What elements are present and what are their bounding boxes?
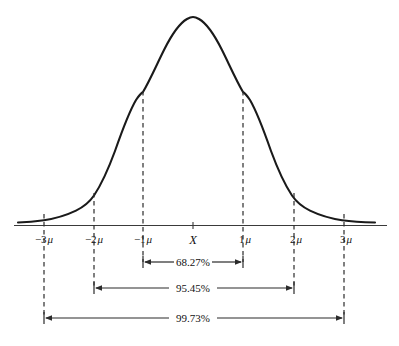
normal-distribution-figure: −3μ −2μ −1μ X 1μ 2μ 3μ 68.27% [0, 0, 399, 346]
axis-label-plus3sigma-value: 3 [340, 233, 346, 245]
axis-label-plus2sigma-value: 2 [290, 233, 296, 245]
arrow-right-icon [286, 285, 293, 291]
axis-label-minus1sigma: −1μ [134, 233, 153, 245]
axis-label-minus2sigma-value: −2 [85, 233, 97, 245]
interval-label-three-sigma: 99.73% [176, 312, 210, 324]
axis-label-plus3sigma-mu: μ [345, 233, 352, 245]
arrow-left-icon [95, 285, 102, 291]
axis-label-minus3sigma: −3μ [35, 233, 54, 245]
distribution-chart-svg: −3μ −2μ −1μ X 1μ 2μ 3μ 68.27% [0, 0, 399, 346]
axis-label-minus3sigma-mu: μ [47, 233, 54, 245]
interval-label-one-sigma: 68.27% [176, 256, 210, 268]
normal-curve-path [18, 17, 375, 223]
axis-label-center-x: X [188, 233, 198, 247]
arrow-left-icon [144, 259, 151, 265]
axis-label-minus2sigma: −2μ [85, 233, 104, 245]
axis-label-plus2sigma-mu: μ [295, 233, 302, 245]
axis-label-plus1sigma: 1μ [239, 233, 252, 245]
axis-label-minus3sigma-value: −3 [35, 233, 47, 245]
axis-label-plus1sigma-mu: μ [244, 233, 251, 245]
interval-marker-one-sigma: 68.27% [143, 256, 243, 268]
axis-label-minus2sigma-mu: μ [97, 233, 104, 245]
axis-label-plus2sigma: 2μ [290, 233, 303, 245]
axis-label-plus1sigma-value: 1 [239, 233, 245, 245]
arrow-right-icon [336, 315, 343, 321]
axis-label-plus3sigma: 3μ [340, 233, 353, 245]
interval-marker-two-sigma: 95.45% [94, 282, 294, 294]
axis-label-minus1sigma-value: −1 [134, 233, 146, 245]
axis-label-minus1sigma-mu: μ [146, 233, 153, 245]
arrow-right-icon [235, 259, 242, 265]
interval-marker-three-sigma: 99.73% [44, 312, 344, 324]
arrow-left-icon [45, 315, 52, 321]
interval-label-two-sigma: 95.45% [176, 282, 210, 294]
